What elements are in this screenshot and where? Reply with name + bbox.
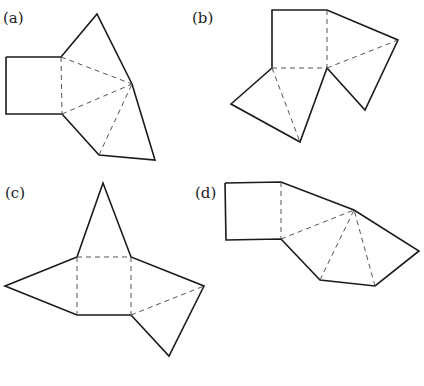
figure-d-fold-line [320,210,354,280]
nets-diagram: (a) (b) (c) (d) [0,0,424,386]
figure-a-fold-line [61,57,62,114]
figure-b: (b) [192,9,398,142]
figure-a: (a) [3,9,155,160]
figure-a-outline [6,14,155,160]
figure-d-fold-line [281,210,354,239]
figure-d-label: (d) [195,184,216,202]
figure-c-outline [5,183,204,356]
figure-a-fold-line [99,84,132,155]
figure-d: (d) [195,182,419,286]
figure-d-outline [225,182,419,286]
figure-c-label: (c) [5,184,25,202]
figure-b-fold-line [272,68,300,142]
figure-a-fold-line [62,84,132,114]
figure-b-label: (b) [192,9,213,27]
figure-c: (c) [5,183,204,356]
figure-a-label: (a) [3,9,24,27]
figure-b-outline [231,10,398,142]
figure-c-fold-line [131,286,204,315]
